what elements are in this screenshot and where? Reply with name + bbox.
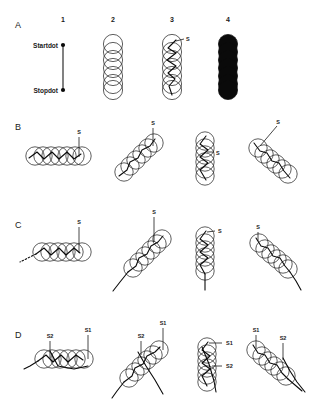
s2-label: S2 <box>280 335 287 341</box>
stroke-tail-path <box>112 382 124 398</box>
stroke-trace-path <box>38 355 83 362</box>
stroke-tail-path <box>113 272 128 291</box>
chain-circle <box>49 243 67 261</box>
panel-c-col3-vertical-chain: S <box>196 227 222 290</box>
panel-c-col4-diagonal-down-chain: S <box>250 224 301 290</box>
secondary-stroke-path <box>283 358 305 392</box>
panel-c-col1-horizontal-chain: S <box>20 219 91 262</box>
chain-circle <box>150 341 168 359</box>
panel-b-col2-diagonal-up-chain: S <box>115 120 163 181</box>
stroke-tail-path <box>24 361 38 369</box>
stopdot-label: Stopdot <box>33 87 58 95</box>
chain-circle <box>145 134 163 152</box>
chain-circle <box>136 247 154 265</box>
filled-circle <box>218 80 237 99</box>
chain-circle <box>142 241 160 259</box>
s-label: S <box>77 219 81 225</box>
stroke-trace-path <box>200 231 208 274</box>
panel-d-col3-vertical-chain: S1 S2 <box>198 338 233 392</box>
chain-circle <box>42 147 60 165</box>
panel-c-col2-diagonal-up-chain: S <box>113 209 171 291</box>
chain-circle <box>73 243 91 261</box>
panel-d-col2-diagonal-up-chain: S2 S1 <box>112 320 168 398</box>
startdot-label: Startdot <box>33 42 59 49</box>
figure-container: 1 2 3 4 A B C D Startdot Stopdot <box>0 0 312 406</box>
s-label: S <box>218 228 222 234</box>
startdot-marker <box>61 43 65 47</box>
stroke-trace-path <box>119 139 155 176</box>
panel-b: S S <box>26 119 297 185</box>
panel-b-col4-diagonal-down-chain: S <box>249 119 297 183</box>
s1-label: S1 <box>253 327 260 333</box>
s-label: S <box>151 120 155 126</box>
chain-circle <box>43 350 61 368</box>
s-label: S <box>152 209 156 215</box>
s-label: S <box>77 129 81 135</box>
stroke-trace-path <box>128 236 163 272</box>
panel-letter-a: A <box>15 20 21 30</box>
chain-circle <box>132 357 150 375</box>
stroke-trace-path <box>200 136 208 180</box>
column-header-1: 1 <box>61 16 65 23</box>
panel-a: Startdot Stopdot <box>33 34 238 99</box>
panel-letter-b: B <box>15 122 21 132</box>
chain-circle <box>41 243 59 261</box>
chain-circle <box>148 235 166 253</box>
panel-b-col3-vertical-chain: S <box>196 132 220 185</box>
s1-label: S1 <box>160 320 167 326</box>
s-leader-line <box>207 231 215 232</box>
s-label: S <box>276 119 280 125</box>
chain-circle <box>138 351 156 369</box>
panel-a-col4-filled-chain <box>218 34 237 99</box>
s-leader-line <box>260 126 277 146</box>
panel-a-col3-circle-chain-with-trace: S <box>162 34 190 99</box>
panel-d-col1-horizontal-chain: S2 S1 <box>24 327 93 369</box>
panel-a-col2-circle-chain <box>103 34 122 99</box>
panel-b-col1-horizontal-chain: S <box>26 129 91 165</box>
s1-label: S1 <box>85 327 92 333</box>
s1-label: S1 <box>226 340 233 346</box>
panel-a-col1-startstop-axis: Startdot Stopdot <box>33 42 65 95</box>
panel-d: S2 S1 S2 S1 <box>24 320 305 398</box>
chain-circle <box>51 350 69 368</box>
chain-circle <box>57 243 75 261</box>
secondary-stroke-path <box>138 352 163 394</box>
s2-label: S2 <box>47 333 54 339</box>
panel-letter-d: D <box>15 330 22 340</box>
column-header-4: 4 <box>226 16 230 23</box>
chain-circle <box>59 350 77 368</box>
stroke-model-figure: 1 2 3 4 A B C D Startdot Stopdot <box>0 0 312 406</box>
s-label: S <box>186 36 190 42</box>
panel-letter-c: C <box>15 220 22 230</box>
chain-circle <box>144 346 162 364</box>
chain-circle <box>58 147 76 165</box>
column-header-3: 3 <box>170 16 174 23</box>
panel-d-col4-diagonal-down-chain: S1 S2 <box>247 327 305 392</box>
stroke-trace-path <box>36 248 80 255</box>
s-label: S <box>256 224 260 230</box>
chain-circle <box>75 350 93 368</box>
s2-label: S2 <box>138 333 145 339</box>
column-headers: 1 2 3 4 <box>61 16 230 23</box>
chain-circle <box>153 230 171 248</box>
stopdot-marker <box>61 88 65 92</box>
s2-label: S2 <box>226 363 233 369</box>
s-label: S <box>216 150 220 156</box>
chain-circle <box>50 147 68 165</box>
chain-circle <box>103 80 122 99</box>
chain-circle <box>127 151 145 169</box>
column-header-2: 2 <box>111 16 115 23</box>
chain-circle <box>65 243 83 261</box>
chain-circle <box>34 147 52 165</box>
row-letters: A B C D <box>15 20 22 340</box>
chain-circle <box>133 145 151 163</box>
panel-c: S S <box>20 209 301 291</box>
chain-circle <box>139 139 157 157</box>
